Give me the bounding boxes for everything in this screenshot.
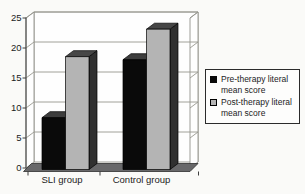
bar-1-1-side xyxy=(170,23,178,169)
bar-0-1-front xyxy=(66,57,90,170)
legend-swatch-post-therapy xyxy=(210,99,217,106)
right-wall xyxy=(190,12,198,168)
y-axis-label-0: 0 xyxy=(16,162,21,173)
x-axis-label-1: Control group xyxy=(113,174,171,185)
legend-swatch-pre-therapy xyxy=(210,76,217,83)
chart-legend: Pre-therapy literal mean score Post-ther… xyxy=(205,69,300,124)
x-axis-label-0: SLI group xyxy=(41,174,82,185)
bar-chart: 0510152025SLI groupControl group Pre-the… xyxy=(0,0,305,194)
legend-label-post-therapy: Post-therapy literal mean score xyxy=(221,97,297,119)
legend-item-pre-therapy: Pre-therapy literal mean score xyxy=(210,74,297,96)
y-axis-label-25: 25 xyxy=(11,12,22,23)
legend-label-pre-therapy: Pre-therapy literal mean score xyxy=(221,74,297,96)
left-wall xyxy=(26,12,34,168)
y-axis-label-20: 20 xyxy=(11,42,22,53)
bar-0-0-front xyxy=(42,118,66,170)
y-axis-label-10: 10 xyxy=(11,102,22,113)
legend-item-post-therapy: Post-therapy literal mean score xyxy=(210,97,297,119)
y-axis-label-15: 15 xyxy=(11,72,22,83)
bar-1-0-front xyxy=(123,60,147,170)
y-axis-label-5: 5 xyxy=(16,132,21,143)
bar-1-1-front xyxy=(147,29,171,169)
bar-0-1-side xyxy=(89,51,97,170)
